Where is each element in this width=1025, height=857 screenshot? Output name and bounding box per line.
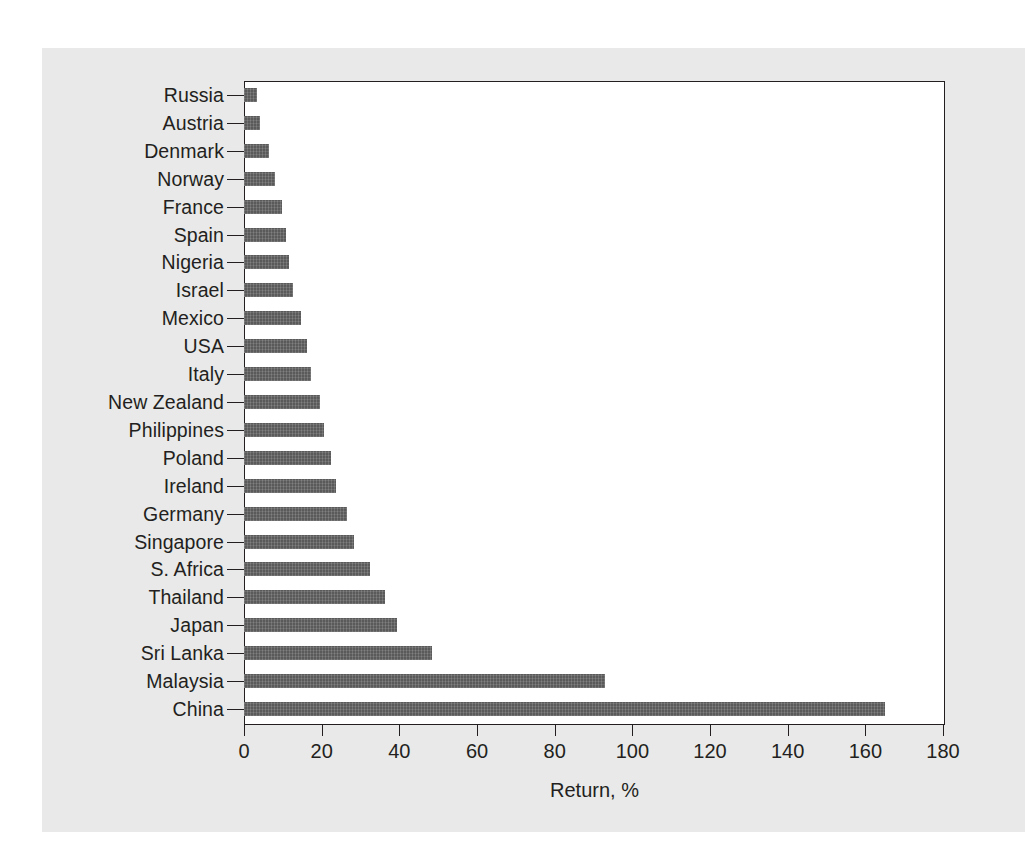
- bar: [244, 339, 307, 353]
- bar: [244, 283, 293, 297]
- y-axis-tick: [227, 486, 244, 487]
- y-axis-label: China: [173, 700, 224, 718]
- y-axis-label: Israel: [176, 281, 224, 299]
- bar: [244, 395, 320, 409]
- bar: [244, 479, 336, 493]
- bar: [244, 144, 269, 158]
- y-axis-label: Malaysia: [146, 672, 224, 690]
- y-axis-label: Philippines: [129, 421, 224, 439]
- x-axis-tick: [865, 724, 866, 736]
- x-axis-tick: [632, 724, 633, 736]
- x-axis-tick-label: 160: [849, 740, 882, 763]
- y-axis-tick: [227, 95, 244, 96]
- x-axis-tick-label: 40: [388, 740, 410, 763]
- x-axis-tick: [555, 724, 556, 736]
- y-axis-tick: [227, 346, 244, 347]
- x-axis-title: Return, %: [244, 779, 945, 802]
- y-axis-tick: [227, 653, 244, 654]
- y-axis-tick: [227, 597, 244, 598]
- y-axis-label: Singapore: [134, 533, 224, 551]
- y-axis-label: Russia: [164, 86, 224, 104]
- y-axis-tick: [227, 235, 244, 236]
- x-axis-tick-label: 180: [926, 740, 959, 763]
- y-axis-tick: [227, 123, 244, 124]
- y-axis-tick: [227, 430, 244, 431]
- bar: [244, 646, 432, 660]
- bar-fill: [244, 144, 269, 158]
- bar: [244, 423, 324, 437]
- bar: [244, 674, 605, 688]
- x-axis-tick: [322, 724, 323, 736]
- y-axis-tick: [227, 542, 244, 543]
- bar-fill: [244, 674, 605, 688]
- bar: [244, 255, 289, 269]
- bar-fill: [244, 702, 885, 716]
- bar: [244, 562, 370, 576]
- x-axis-tick: [710, 724, 711, 736]
- y-axis-tick: [227, 179, 244, 180]
- bar: [244, 367, 311, 381]
- y-axis-label: Austria: [163, 114, 224, 132]
- y-axis-label: Japan: [170, 616, 224, 634]
- bar: [244, 535, 354, 549]
- bar-fill: [244, 283, 293, 297]
- bar-fill: [244, 618, 397, 632]
- y-axis-tick: [227, 207, 244, 208]
- y-axis-label: France: [163, 198, 224, 216]
- bar: [244, 311, 301, 325]
- bar: [244, 702, 885, 716]
- bar-fill: [244, 451, 331, 465]
- y-axis-tick: [227, 374, 244, 375]
- y-axis-label: Thailand: [148, 588, 224, 606]
- y-axis-tick: [227, 625, 244, 626]
- y-axis-tick: [227, 458, 244, 459]
- bar-fill: [244, 367, 311, 381]
- y-axis-category-labels: RussiaAustriaDenmarkNorwayFranceSpainNig…: [42, 81, 244, 725]
- bar-fill: [244, 228, 286, 242]
- figure-panel: RussiaAustriaDenmarkNorwayFranceSpainNig…: [42, 48, 1025, 832]
- bar-fill: [244, 339, 307, 353]
- bar: [244, 88, 257, 102]
- bar-fill: [244, 172, 275, 186]
- y-axis-label: New Zealand: [108, 393, 224, 411]
- y-axis-tick: [227, 681, 244, 682]
- bar-fill: [244, 646, 432, 660]
- bar-fill: [244, 535, 354, 549]
- y-axis-label: Poland: [163, 449, 224, 467]
- x-axis-tick-label: 100: [616, 740, 649, 763]
- y-axis-label: Nigeria: [162, 253, 224, 271]
- x-axis-tick-label: 20: [311, 740, 333, 763]
- bar: [244, 451, 331, 465]
- x-axis-tick-label: 60: [466, 740, 488, 763]
- y-axis-label: Ireland: [164, 477, 224, 495]
- x-axis-tick-label: 140: [771, 740, 804, 763]
- y-axis-label: USA: [184, 337, 224, 355]
- y-axis-label: Denmark: [144, 142, 224, 160]
- y-axis-tick: [227, 262, 244, 263]
- y-axis-label: Norway: [157, 170, 224, 188]
- bar-fill: [244, 395, 320, 409]
- bar: [244, 618, 397, 632]
- bar-fill: [244, 507, 347, 521]
- bar-fill: [244, 200, 282, 214]
- y-axis-tick: [227, 569, 244, 570]
- bar: [244, 507, 347, 521]
- y-axis-label: Italy: [188, 365, 224, 383]
- y-axis-label: Spain: [174, 226, 224, 244]
- bar-fill: [244, 590, 385, 604]
- bar: [244, 172, 275, 186]
- x-axis-tick-label: 80: [544, 740, 566, 763]
- x-axis-tick-label: 120: [693, 740, 726, 763]
- x-axis-ticks: 020406080100120140160180: [244, 724, 945, 824]
- bar: [244, 590, 385, 604]
- x-axis-tick: [399, 724, 400, 736]
- y-axis-label: Sri Lanka: [141, 644, 224, 662]
- y-axis-label: S. Africa: [150, 560, 224, 578]
- y-axis-tick: [227, 514, 244, 515]
- y-axis-label: Germany: [143, 505, 224, 523]
- bar-series: [244, 81, 945, 725]
- bar-chart: RussiaAustriaDenmarkNorwayFranceSpainNig…: [42, 48, 1025, 832]
- bar-fill: [244, 423, 324, 437]
- bar-fill: [244, 479, 336, 493]
- y-axis-tick: [227, 318, 244, 319]
